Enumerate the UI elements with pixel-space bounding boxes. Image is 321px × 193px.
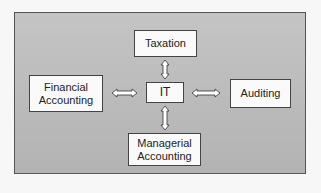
- node-taxation: Taxation: [134, 30, 197, 57]
- node-label-line1: Financial: [44, 81, 88, 94]
- node-auditing: Auditing: [230, 79, 291, 108]
- node-label: IT: [160, 86, 171, 99]
- node-label-line1: Managerial: [137, 137, 191, 150]
- node-label: Taxation: [145, 37, 186, 50]
- node-label-line2: Accounting: [39, 94, 93, 107]
- double-arrow-icon: [161, 106, 169, 130]
- node-label: Auditing: [241, 87, 281, 100]
- node-financial-accounting: Financial Accounting: [29, 75, 103, 112]
- double-arrow-icon: [112, 89, 137, 97]
- double-arrow-icon: [192, 89, 220, 97]
- node-it: IT: [146, 82, 184, 103]
- node-label-line2: Accounting: [137, 150, 191, 163]
- node-managerial-accounting: Managerial Accounting: [128, 133, 201, 166]
- double-arrow-icon: [161, 60, 169, 79]
